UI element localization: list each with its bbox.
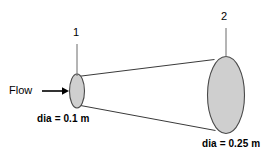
station-label-1: 1: [73, 27, 79, 38]
outlet-face-ellipse-station-2: [208, 57, 245, 134]
cone-body: [78, 60, 216, 131]
cone-bottom-edge-line: [81, 106, 216, 131]
duct-diagram-figure: 1 2 Flow dia = 0.1 m dia = 0.25 m: [0, 0, 275, 156]
inlet-face-ellipse-station-1: [70, 74, 85, 108]
flow-arrow-head: [62, 87, 69, 95]
diameter-label-station-2: dia = 0.25 m: [202, 139, 260, 149]
station-label-2: 2: [221, 11, 227, 22]
diameter-label-station-1: dia = 0.1 m: [37, 114, 90, 124]
flow-label: Flow: [9, 85, 32, 96]
duct-diagram-canvas: [0, 0, 275, 156]
cone-top-edge-line: [78, 60, 215, 77]
flow-arrow-icon: [42, 87, 69, 95]
